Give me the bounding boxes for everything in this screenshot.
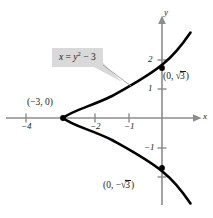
vertex-label: (−3, 0) — [27, 98, 53, 108]
x-tick-label--2: −2 — [90, 122, 101, 131]
point-lower-intercept — [159, 165, 165, 171]
equation-exponent: 2 — [78, 50, 81, 57]
y-tick-label-1: 1 — [148, 84, 153, 93]
y-axis — [158, 16, 167, 206]
x-tick-label--4: −4 — [21, 122, 32, 131]
x-axis-label: x — [203, 112, 207, 121]
upper-intercept-label: (0, √3) — [163, 71, 189, 82]
equation-equals: = — [66, 52, 71, 62]
y-tick-label--1: −1 — [144, 143, 155, 152]
equation-callout: x = y2 − 3 — [52, 48, 103, 67]
parabola-figure: x = y2 − 3 −4 −2 −1 2 1 −1 x y (−3, 0) (… — [0, 0, 213, 218]
equation-rest: − 3 — [83, 52, 95, 62]
y-tick-label-2: 2 — [148, 55, 153, 64]
lower-intercept-label: (0, −√3) — [103, 180, 134, 191]
x-axis — [6, 114, 202, 123]
equation-lhs: x — [59, 52, 63, 62]
x-tick-label--1: −1 — [124, 122, 135, 131]
point-vertex — [60, 115, 66, 121]
y-axis-label: y — [164, 8, 168, 17]
